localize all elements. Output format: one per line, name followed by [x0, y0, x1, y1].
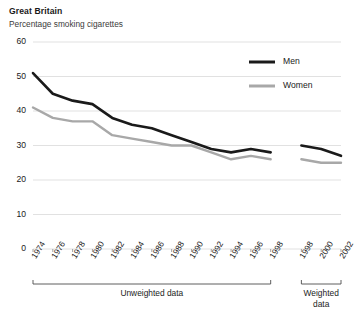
legend-label-women: Women [283, 80, 312, 90]
y-axis-tick-label: 30 [4, 140, 26, 150]
legend-label-men: Men [283, 56, 300, 66]
y-axis-tick-label: 10 [4, 209, 26, 219]
series-line-men [33, 73, 271, 152]
series-line-men [301, 146, 341, 156]
series-line-women [301, 159, 341, 162]
y-axis-tick-label: 40 [4, 105, 26, 115]
y-axis-tick-label: 0 [4, 243, 26, 253]
y-axis-tick-label: 50 [4, 71, 26, 81]
y-axis-tick-label: 20 [4, 174, 26, 184]
y-axis-tick-label: 60 [4, 36, 26, 46]
group-label-weighted: Weighted data [286, 288, 356, 310]
group-label-unweighted: Unweighted data [92, 288, 212, 299]
